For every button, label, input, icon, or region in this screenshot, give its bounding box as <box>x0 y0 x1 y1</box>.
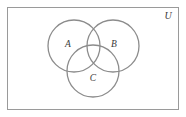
venn-diagram-canvas: A B C U <box>0 0 186 117</box>
set-circle-c <box>67 45 119 97</box>
venn-diagram-figure: A B C U <box>0 0 186 117</box>
set-circle-a <box>48 20 100 72</box>
set-label-c: C <box>90 73 97 83</box>
universal-set-rectangle <box>8 8 179 110</box>
set-label-b: B <box>111 39 117 49</box>
set-label-a: A <box>64 39 71 49</box>
universal-set-label: U <box>164 10 172 21</box>
